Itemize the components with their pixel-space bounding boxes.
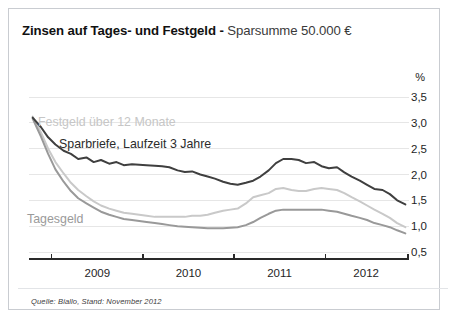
title-light: Sparsumme 50.000 € <box>227 23 351 38</box>
series-label-festgeld: Festgeld über 12 Monate <box>38 115 176 129</box>
series-lines <box>33 117 406 234</box>
series-line <box>33 117 406 228</box>
source-divider <box>18 288 448 289</box>
y-axis-unit-label: % <box>415 71 425 83</box>
series-label-sparbriefe: Sparbriefe, Laufzeit 3 Jahre <box>59 137 211 151</box>
series-line <box>33 118 406 205</box>
title-strong: Zinsen auf Tages- und Festgeld <box>22 23 216 38</box>
title-separator: - <box>216 23 227 38</box>
series-label-tagesgeld: Tagesgeld <box>27 212 84 226</box>
page-title: Zinsen auf Tages- und Festgeld - Sparsum… <box>22 23 352 38</box>
source-note: Quelle: Biallo, Stand: November 2012 <box>31 297 162 306</box>
chart-card: Zinsen auf Tages- und Festgeld - Sparsum… <box>8 8 440 310</box>
x-axis <box>29 254 409 259</box>
